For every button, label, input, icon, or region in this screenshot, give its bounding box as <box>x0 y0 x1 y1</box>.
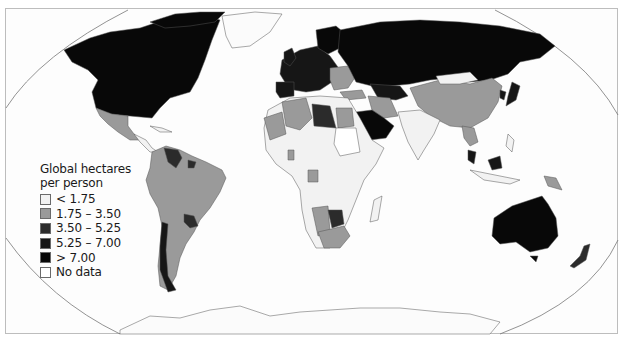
legend-item: 1.75 – 3.50 <box>40 207 131 222</box>
region-central-america <box>134 134 158 152</box>
legend-item: < 1.75 <box>40 192 131 207</box>
region-antarctica <box>120 306 500 334</box>
legend-label: 5.25 – 7.00 <box>56 236 121 250</box>
region-egypt <box>336 108 354 128</box>
legend-swatch <box>40 238 51 249</box>
legend-label: 3.50 – 5.25 <box>56 221 121 235</box>
region-malaysia <box>468 150 476 164</box>
region-greenland <box>222 12 282 48</box>
legend-swatch <box>40 208 51 219</box>
region-gabon <box>308 170 318 182</box>
legend-swatch <box>40 267 51 278</box>
region-canada-usa <box>64 14 220 118</box>
legend-label: 1.75 – 3.50 <box>56 207 121 221</box>
legend-title-line1: Global hectares <box>40 162 131 176</box>
region-australia <box>492 196 558 252</box>
legend-swatch <box>40 252 51 263</box>
legend-label: < 1.75 <box>56 192 95 206</box>
region-japan <box>506 82 520 106</box>
region-korea <box>500 90 506 100</box>
map-legend: Global hectares per person < 1.75 1.75 –… <box>40 162 131 280</box>
region-philippines <box>506 134 514 152</box>
legend-item: > 7.00 <box>40 250 131 265</box>
region-iberia <box>276 82 294 98</box>
region-new-zealand <box>570 244 590 268</box>
region-se-asia <box>462 126 478 146</box>
region-papua-new-guinea <box>544 176 562 190</box>
region-cuba <box>150 126 172 132</box>
legend-label: > 7.00 <box>56 251 95 265</box>
legend-swatch <box>40 194 51 205</box>
legend-item: 5.25 – 7.00 <box>40 236 131 251</box>
region-india <box>398 110 440 160</box>
region-sudan <box>334 128 360 156</box>
legend-item: 3.50 – 5.25 <box>40 221 131 236</box>
legend-swatch <box>40 223 51 234</box>
region-borneo <box>488 156 502 170</box>
region-ghana <box>288 150 294 160</box>
projection-outline-right-bottom <box>500 240 618 334</box>
region-madagascar <box>370 196 382 222</box>
region-indonesia <box>470 170 520 184</box>
legend-title-line2: per person <box>40 176 131 190</box>
region-tasmania <box>530 256 538 262</box>
legend-item: No data <box>40 265 131 280</box>
legend-items: < 1.75 1.75 – 3.50 3.50 – 5.25 5.25 – 7.… <box>40 192 131 280</box>
legend-label: No data <box>56 265 102 279</box>
